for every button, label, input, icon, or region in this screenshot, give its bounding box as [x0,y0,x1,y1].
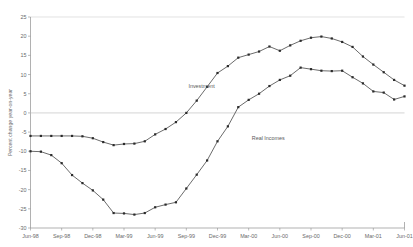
data-point-investment [351,46,353,48]
data-point-real-incomes [341,70,343,72]
data-point-real-incomes [372,90,374,92]
data-point-real-incomes [164,204,166,206]
y-tick-label: -20 [19,187,27,193]
y-tick-label: 20 [21,33,27,39]
data-point-real-incomes [393,98,395,100]
data-point-investment [237,57,239,59]
y-tick-label: -30 [19,225,27,231]
x-tick-label: Sep-99 [178,233,195,239]
data-point-investment [61,135,63,137]
data-point-investment [71,135,73,137]
data-point-real-incomes [29,150,31,152]
y-tick-label: -10 [19,148,27,154]
data-point-real-incomes [40,151,42,153]
data-point-real-incomes [154,206,156,208]
x-tick-label: Dec-00 [333,233,350,239]
data-point-real-incomes [331,70,333,72]
series-labels: InvestmentReal Incomes [188,83,285,141]
x-tick-label: Sep-98 [53,233,70,239]
series-label-investment: Investment [188,83,215,89]
x-tick-label: Mar-99 [115,233,132,239]
data-point-real-incomes [71,174,73,176]
y-tick-label: -25 [19,206,27,212]
y-tick-label: 0 [24,110,27,116]
x-tick-label: Mar-00 [240,233,257,239]
y-axis-ticks: -30-25-20-15-10-50510152025 [19,14,31,231]
data-point-investment [29,135,31,137]
data-point-real-incomes [92,189,94,191]
data-point-investment [279,50,281,52]
chart-container: -30-25-20-15-10-50510152025 Jun-98Sep-98… [0,0,413,247]
data-point-real-incomes [61,162,63,164]
data-point-real-incomes [310,68,312,70]
data-point-investment [383,71,385,73]
data-point-real-incomes [258,93,260,95]
y-tick-label: 15 [21,52,27,58]
y-tick-label: -15 [19,167,27,173]
data-point-real-incomes [403,95,405,97]
data-point-real-incomes [196,174,198,176]
data-point-real-incomes [113,212,115,214]
axes [31,17,405,228]
data-point-investment [300,40,302,42]
data-point-investment [289,44,291,46]
series-group [29,35,405,215]
data-point-investment [144,140,146,142]
y-axis-title-text: Percent change year-on-year [7,89,13,156]
data-point-real-incomes [216,140,218,142]
data-point-investment [133,143,135,145]
x-tick-label: Jun-98 [22,233,38,239]
data-point-investment [154,133,156,135]
data-point-investment [258,50,260,52]
data-point-investment [113,144,115,146]
y-tick-label: 5 [24,91,27,97]
data-point-investment [175,121,177,123]
data-point-investment [403,85,405,87]
y-tick-label: 10 [21,72,27,78]
x-tick-label: Mar-01 [365,233,382,239]
data-point-investment [320,35,322,37]
data-point-investment [50,135,52,137]
data-point-investment [81,135,83,137]
data-point-investment [362,55,364,57]
data-point-investment [185,112,187,114]
data-point-real-incomes [351,76,353,78]
data-point-investment [372,63,374,65]
x-tick-label: Dec-98 [84,233,101,239]
data-point-real-incomes [289,75,291,77]
x-tick-label: Jun-01 [396,233,412,239]
y-tick-label: -5 [22,129,27,135]
data-point-investment [268,45,270,47]
data-point-investment [227,65,229,67]
x-tick-label: Jun-99 [147,233,163,239]
data-point-real-incomes [123,212,125,214]
data-point-real-incomes [185,187,187,189]
data-point-investment [123,143,125,145]
data-point-real-incomes [133,213,135,215]
data-point-real-incomes [268,85,270,87]
data-point-investment [310,37,312,39]
data-point-real-incomes [81,182,83,184]
data-point-real-incomes [248,99,250,101]
data-point-real-incomes [279,79,281,81]
data-point-investment [196,100,198,102]
data-point-real-incomes [237,106,239,108]
data-point-investment [40,135,42,137]
series-label-real-incomes: Real Incomes [252,135,285,141]
data-point-real-incomes [144,212,146,214]
y-tick-label: 25 [21,14,27,20]
data-point-investment [341,41,343,43]
x-axis-ticks: Jun-98Sep-98Dec-98Mar-99Jun-99Sep-99Dec-… [22,228,412,239]
data-point-real-incomes [383,91,385,93]
data-point-investment [216,72,218,74]
line-chart: -30-25-20-15-10-50510152025 Jun-98Sep-98… [0,0,413,247]
data-point-investment [331,37,333,39]
x-tick-label: Jun-00 [272,233,288,239]
data-point-real-incomes [175,201,177,203]
data-point-real-incomes [102,199,104,201]
series-line-investment [31,37,405,146]
data-point-investment [248,54,250,56]
data-point-real-incomes [50,154,52,156]
x-tick-label: Sep-00 [302,233,319,239]
data-point-investment [164,128,166,130]
